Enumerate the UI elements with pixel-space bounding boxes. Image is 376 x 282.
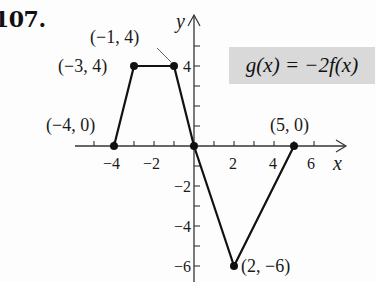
x-tick-label: −4	[103, 155, 120, 172]
x-axis-label: x	[332, 152, 342, 174]
function-formula: g(x) = −2f(x)	[229, 47, 375, 84]
label-leader-line	[157, 48, 171, 62]
point-label: (5, 0)	[270, 115, 309, 136]
point-marker	[110, 142, 118, 150]
y-tick-label: 4	[183, 58, 191, 75]
graph: y x −4 −2 2 4 6 4 −2 −4 −6 (−4, 0) (−3, …	[0, 0, 376, 282]
point-marker	[130, 62, 138, 70]
x-tick-label: 2	[229, 155, 237, 172]
y-axis-label: y	[174, 10, 185, 33]
y-tick-label: −6	[174, 258, 191, 275]
x-tick-label: 4	[269, 155, 277, 172]
y-tick-label: −2	[174, 178, 191, 195]
point-marker	[290, 142, 298, 150]
point-label: (2, −6)	[241, 256, 290, 277]
point-label: (−3, 4)	[58, 56, 107, 77]
point-marker	[230, 262, 238, 270]
y-tick-label: −4	[174, 218, 191, 235]
point-label: (−1, 4)	[90, 27, 139, 48]
function-graph-line	[114, 66, 294, 266]
point-label: (−4, 0)	[46, 115, 95, 136]
textbook-exercise: 107.	[0, 0, 376, 282]
point-marker	[170, 62, 178, 70]
x-tick-label: −2	[143, 155, 160, 172]
point-marker	[190, 142, 198, 150]
x-tick-label: 6	[307, 155, 315, 172]
